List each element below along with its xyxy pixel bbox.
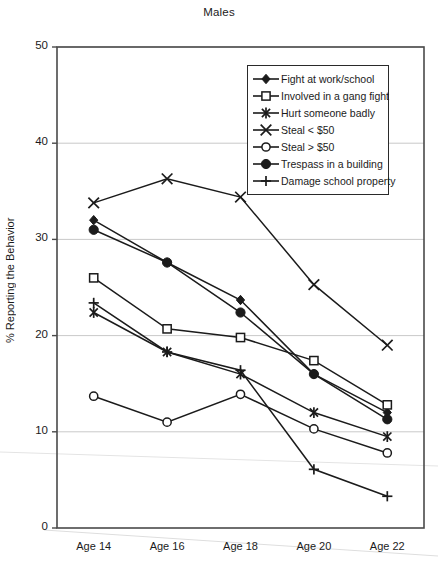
legend-item-label: Involved in a gang fight [281,89,389,103]
legend-marker-open-square-icon [251,89,281,103]
marker-open-square [90,274,98,282]
x-axis-tick-label: Age 16 [137,540,197,552]
scan-artifact-line [0,452,438,466]
legend-marker-plus-icon [251,174,281,188]
marker-open-circle [90,392,98,400]
y-axis-tick-label: 0 [22,520,48,532]
marker-filled-circle [261,159,270,168]
series-steal-50 [88,173,392,350]
marker-open-square [310,357,318,365]
legend-item-label: Steal < $50 [281,123,334,137]
marker-filled-diamond [90,215,98,224]
series-line [94,179,388,345]
y-axis-tick-label: 30 [22,231,48,243]
marker-filled-circle [163,258,172,267]
marker-open-circle [310,425,318,433]
x-axis-tick-label: Age 22 [357,540,417,552]
y-axis-tick-label: 50 [22,39,48,51]
chart-figure: Males % Reporting the Behavior Fight at … [0,0,438,581]
legend-item[interactable]: Hurt someone badly [251,104,385,121]
marker-open-circle [236,390,244,398]
marker-filled-circle [383,415,392,424]
legend-item-label: Steal > $50 [281,140,334,154]
legend-item[interactable]: Involved in a gang fight [251,87,385,104]
marker-open-square [383,401,391,409]
legend-marker-asterisk-x-icon [251,106,281,120]
marker-open-square [262,91,270,99]
legend-item-label: Trespass in a building [281,157,383,171]
marker-open-circle [163,418,171,426]
y-axis-tick-label: 20 [22,328,48,340]
marker-filled-diamond [262,74,270,83]
marker-filled-circle [89,225,98,234]
legend-item-label: Hurt someone badly [281,106,375,120]
marker-filled-circle [236,308,245,317]
legend-item[interactable]: Steal > $50 [251,138,385,155]
legend-item[interactable]: Trespass in a building [251,155,385,172]
legend-item-label: Fight at work/school [281,72,374,86]
legend-item[interactable]: Damage school property [251,172,385,189]
x-axis-tick-label: Age 14 [64,540,124,552]
legend-marker-filled-circle-icon [251,157,281,171]
series-involved-in-a-gang-fight [90,274,392,409]
marker-open-circle [262,142,270,150]
marker-filled-circle [309,369,318,378]
legend-marker-cross-x-icon [251,123,281,137]
series-line [94,394,388,453]
marker-open-square [236,333,244,341]
y-axis-tick-label: 10 [22,424,48,436]
legend-marker-filled-diamond-icon [251,72,281,86]
x-axis-tick-label: Age 20 [284,540,344,552]
legend-item[interactable]: Steal < $50 [251,121,385,138]
marker-open-circle [383,449,391,457]
marker-open-square [163,325,171,333]
legend-item-label: Damage school property [281,174,395,188]
series-damage-school-property [89,298,393,502]
legend-item[interactable]: Fight at work/school [251,70,385,87]
chart-legend: Fight at work/schoolInvolved in a gang f… [247,65,389,195]
x-axis-tick-label: Age 18 [211,540,271,552]
y-axis-tick-label: 40 [22,135,48,147]
series-line [94,303,388,496]
legend-marker-open-circle-icon [251,140,281,154]
